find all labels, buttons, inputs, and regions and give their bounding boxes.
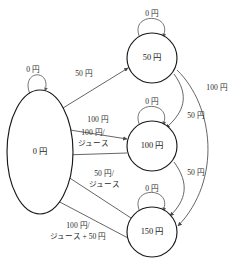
state-label-50: 50 円 <box>143 53 161 62</box>
self-loop-label-s50: 0 円 <box>145 9 159 18</box>
state-label-150: 150 円 <box>141 227 164 236</box>
edge-label-150-to-0-change: 100 円/ ジュース + 50 円 <box>50 221 107 241</box>
edge-50-to-100 <box>166 74 183 128</box>
edge-label-0-to-100: 100 円 <box>87 115 108 124</box>
fsm-canvas: 0 円 50 円 100 円 150 円 0 円 0 円 0 円 0 円 50 … <box>0 0 241 264</box>
state-label-0: 0 円 <box>33 147 47 156</box>
edge-label-50-to-150: 100 円 <box>206 83 227 92</box>
edge-label-100-to-0: 100 円/ ジュース <box>78 128 109 148</box>
edge-label-100-to-0-line2: ジュース <box>78 139 109 148</box>
edge-label-0-to-50: 50 円 <box>75 69 93 78</box>
edge-label-50-to-100: 50 円 <box>187 111 205 120</box>
edge-label-150-to-0-juice-line2: ジュース <box>89 180 120 189</box>
edge-label-150-to-0-change-line2: ジュース + 50 円 <box>50 232 107 241</box>
self-loop-label-s100: 0 円 <box>145 97 159 106</box>
edge-label-100-to-0-line1: 100 円/ <box>81 128 105 137</box>
edge-label-150-to-0-juice-line1: 50 円/ <box>94 169 114 178</box>
edge-label-150-to-0-change-line1: 100 円/ <box>66 221 90 230</box>
edge-0-to-50 <box>63 68 128 108</box>
edge-100-to-150 <box>170 162 184 216</box>
self-loop-label-s0: 0 円 <box>26 65 40 74</box>
state-diagram: 0 円 50 円 100 円 150 円 0 円 0 円 0 円 0 円 50 … <box>0 0 241 264</box>
edge-label-100-to-150: 50 円 <box>187 168 205 177</box>
edge-label-150-to-0-juice: 50 円/ ジュース <box>89 169 120 189</box>
edge-50-to-150 <box>177 70 208 226</box>
state-label-100: 100 円 <box>141 141 164 150</box>
self-loop-label-s150: 0 円 <box>145 184 159 193</box>
